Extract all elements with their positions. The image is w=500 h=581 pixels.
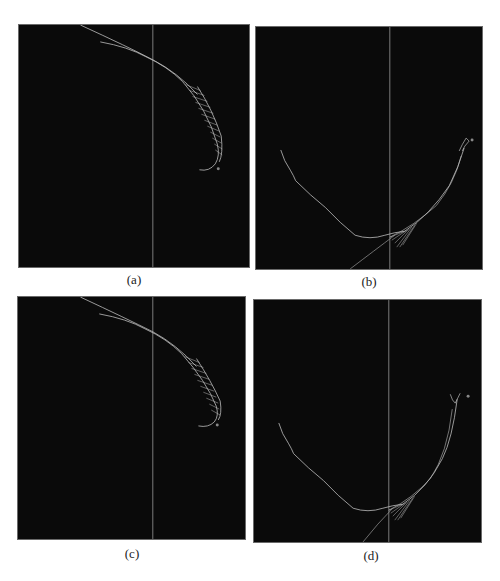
panel-d [253,299,482,543]
panel-b [255,26,483,270]
trajectory-diagram-a [19,25,249,267]
caption-b: (b) [349,274,389,290]
trajectory-diagram-b [256,27,482,269]
caption-c: (c) [112,546,152,562]
trajectory-diagram-d [254,300,481,542]
caption-a: (a) [114,272,154,288]
panel-c [17,296,246,540]
trajectory-diagram-c [18,297,245,539]
panel-a [18,24,250,268]
caption-d: (d) [351,548,391,564]
